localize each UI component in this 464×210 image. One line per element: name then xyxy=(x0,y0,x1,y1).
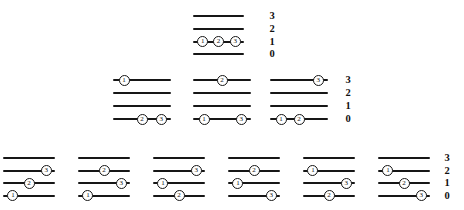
bead-1: 1 xyxy=(307,165,318,176)
level-line xyxy=(3,157,55,159)
level-line xyxy=(153,157,205,159)
figure-canvas: 1233210123213312321032123131221313212332… xyxy=(0,0,464,210)
level-line xyxy=(78,157,130,159)
bead-2: 2 xyxy=(324,190,335,201)
bead-2: 2 xyxy=(399,178,410,189)
bead-1: 1 xyxy=(382,165,393,176)
level-label-0: 0 xyxy=(441,190,453,202)
level-label-2: 2 xyxy=(342,87,354,99)
level-label-1: 1 xyxy=(266,36,278,48)
level-label-3: 3 xyxy=(342,74,354,86)
bead-2: 2 xyxy=(249,165,260,176)
level-line xyxy=(303,157,355,159)
bead-1: 1 xyxy=(82,190,93,201)
level-label-0: 0 xyxy=(266,48,278,60)
bead-2: 2 xyxy=(137,114,148,125)
bead-3: 3 xyxy=(41,165,52,176)
bead-3: 3 xyxy=(416,190,427,201)
level-label-0: 0 xyxy=(342,113,354,125)
bead-3: 3 xyxy=(266,190,277,201)
level-label-2: 2 xyxy=(441,165,453,177)
level-label-1: 1 xyxy=(342,100,354,112)
bead-3: 3 xyxy=(313,75,324,86)
bead-2: 2 xyxy=(294,114,305,125)
level-line xyxy=(378,157,430,159)
diagram-row-3: 3212313122131321233210 xyxy=(0,0,464,210)
bead-3: 3 xyxy=(236,114,247,125)
level-label-3: 3 xyxy=(266,10,278,22)
bead-2: 2 xyxy=(24,178,35,189)
bead-2: 2 xyxy=(217,75,228,86)
bead-1: 1 xyxy=(276,114,287,125)
bead-2: 2 xyxy=(99,165,110,176)
bead-3: 3 xyxy=(341,178,352,189)
level-label-3: 3 xyxy=(441,152,453,164)
bead-1: 1 xyxy=(232,178,243,189)
bead-3: 3 xyxy=(230,36,241,47)
bead-1: 1 xyxy=(7,190,18,201)
bead-1: 1 xyxy=(199,114,210,125)
bead-1: 1 xyxy=(119,75,130,86)
level-line xyxy=(228,157,280,159)
bead-3: 3 xyxy=(116,178,127,189)
level-label-2: 2 xyxy=(266,23,278,35)
bead-3: 3 xyxy=(156,114,167,125)
bead-3: 3 xyxy=(191,165,202,176)
level-label-1: 1 xyxy=(441,177,453,189)
bead-1: 1 xyxy=(157,178,168,189)
bead-2: 2 xyxy=(174,190,185,201)
